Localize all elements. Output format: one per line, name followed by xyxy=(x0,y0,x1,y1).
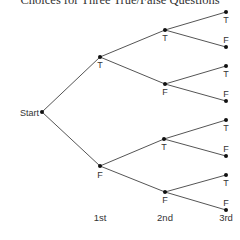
level-label-2nd: 2nd xyxy=(157,212,173,223)
node-l2-3 xyxy=(163,190,167,194)
label-l3-5: F xyxy=(223,144,229,154)
label-l3-1: F xyxy=(223,35,229,45)
edge-l2-l3-2 xyxy=(165,66,226,84)
node-l3-0 xyxy=(224,10,228,14)
label-l3-4: T xyxy=(223,123,229,133)
edge-l2-l3-6 xyxy=(165,175,226,192)
node-l1-t xyxy=(98,55,102,59)
start-node xyxy=(40,110,44,114)
node-l3-5 xyxy=(224,154,228,158)
label-l3-0: T xyxy=(223,15,229,25)
level-label-3rd: 3rd xyxy=(219,212,233,223)
label-l2-0: T xyxy=(162,33,168,43)
label-l3-7: F xyxy=(223,198,229,208)
tree-nodes xyxy=(40,10,228,212)
edge-l1-l2-2 xyxy=(100,139,164,166)
tree-diagram: TFTFTFTFTFTFTFStart 1st2nd3rd xyxy=(0,0,240,240)
node-l3-4 xyxy=(224,118,228,122)
node-l3-6 xyxy=(224,173,228,177)
label-l3-3: F xyxy=(223,89,229,99)
node-l2-0 xyxy=(163,28,167,32)
node-l2-1 xyxy=(163,82,167,86)
label-l2-2: T xyxy=(161,142,167,152)
node-l3-2 xyxy=(224,64,228,68)
label-l3-6: T xyxy=(223,178,229,188)
label-l2-1: F xyxy=(162,87,168,97)
tree-labels: TFTFTFTFTFTFTFStart xyxy=(20,15,229,208)
label-l1-1: F xyxy=(97,170,103,180)
node-l3-1 xyxy=(224,45,228,49)
label-l2-3: F xyxy=(162,195,168,205)
edge-l2-l3-1 xyxy=(165,30,226,47)
level-label-1st: 1st xyxy=(94,212,107,223)
edge-l2-l3-4 xyxy=(164,120,226,139)
edge-l2-l3-0 xyxy=(165,12,226,30)
edge-l2-l3-5 xyxy=(164,139,226,156)
tree-edges xyxy=(42,12,226,210)
node-l2-2 xyxy=(162,137,166,141)
start-label: Start xyxy=(20,108,40,118)
node-l3-3 xyxy=(224,99,228,103)
edge-l1-l2-3 xyxy=(100,166,165,192)
label-l1-0: T xyxy=(97,60,103,70)
label-l3-2: T xyxy=(223,69,229,79)
edge-l2-l3-3 xyxy=(165,84,226,101)
edge-l2-l3-7 xyxy=(165,192,226,210)
edge-l1-l2-1 xyxy=(100,57,165,84)
edge-l1-l2-0 xyxy=(100,30,165,57)
edge-start-l1-0 xyxy=(42,57,100,112)
level-axis: 1st2nd3rd xyxy=(94,212,233,223)
node-l1-f xyxy=(98,164,102,168)
edge-start-l1-1 xyxy=(42,112,100,166)
